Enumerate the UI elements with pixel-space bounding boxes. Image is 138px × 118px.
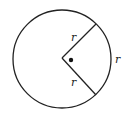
- circle: [13, 10, 111, 108]
- radius-upper: [62, 24, 96, 58]
- label-arc: r: [115, 53, 121, 66]
- circle-diagram: r r r: [0, 0, 138, 118]
- label-radius-lower: r: [71, 76, 77, 89]
- radius-lower: [62, 58, 96, 95]
- center-dot: [69, 58, 73, 62]
- label-radius-upper: r: [71, 31, 77, 44]
